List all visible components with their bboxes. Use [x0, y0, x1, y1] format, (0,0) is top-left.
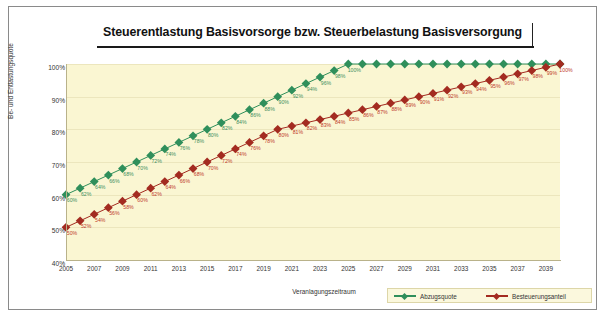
data-point-label: 96%: [504, 80, 514, 86]
x-tick-label: 2005: [59, 265, 73, 272]
data-point-label: 97%: [518, 76, 528, 82]
data-point-marker: [400, 60, 409, 69]
data-point-label: 70%: [137, 165, 147, 171]
x-axis-tick-labels: 2005200720092011201320152017201920212023…: [66, 265, 566, 279]
data-point-marker: [485, 60, 494, 69]
data-point-label: 80%: [279, 132, 289, 138]
y-axis-title: Be- und Entlastungsquote: [7, 0, 14, 119]
data-point-label: 54%: [95, 217, 105, 223]
x-tick-label: 2019: [256, 265, 270, 272]
x-tick-label: 2007: [87, 265, 101, 272]
data-point-label: 60%: [67, 197, 77, 203]
legend-marker-0: [401, 292, 408, 299]
series-lines: [66, 64, 560, 260]
x-tick-label: 2011: [144, 265, 158, 272]
data-point-marker: [414, 60, 423, 69]
data-point-label: 100%: [559, 67, 572, 73]
x-axis-line: [66, 260, 561, 261]
y-axis-line: [66, 64, 67, 261]
x-tick-label: 2009: [115, 265, 129, 272]
data-point-label: 92%: [448, 93, 458, 99]
data-point-label: 58%: [123, 204, 133, 210]
legend-label-0: Abzugsquote: [420, 293, 457, 300]
data-point-label: 66%: [180, 178, 190, 184]
y-tick-label: 80%: [52, 129, 65, 136]
data-point-label: 89%: [406, 102, 416, 108]
data-point-label: 82%: [307, 125, 317, 131]
data-point-label: 50%: [67, 230, 77, 236]
data-point-label: 85%: [349, 116, 359, 122]
data-point-label: 91%: [434, 96, 444, 102]
y-tick-label: 100%: [48, 64, 65, 71]
data-point-label: 87%: [377, 109, 387, 115]
data-point-label: 62%: [81, 191, 91, 197]
x-tick-label: 2025: [341, 265, 355, 272]
data-point-label: 80%: [208, 132, 218, 138]
data-point-label: 86%: [250, 112, 260, 118]
data-point-label: 93%: [462, 89, 472, 95]
x-tick-label: 2027: [369, 265, 383, 272]
data-point-marker: [429, 60, 438, 69]
data-point-label: 100%: [348, 67, 361, 73]
data-point-label: 60%: [137, 197, 147, 203]
plot-area: 60%62%64%66%68%70%72%74%76%78%80%82%84%8…: [66, 64, 560, 260]
data-point-label: 88%: [264, 106, 274, 112]
data-point-label: 99%: [547, 70, 557, 76]
data-point-label: 84%: [236, 119, 246, 125]
x-tick-label: 2013: [172, 265, 186, 272]
x-tick-label: 2017: [228, 265, 242, 272]
data-point-marker: [386, 60, 395, 69]
title-underline: [97, 46, 534, 48]
legend-marker-1: [493, 292, 500, 299]
x-tick-label: 2021: [285, 265, 299, 272]
data-point-label: 72%: [151, 158, 161, 164]
data-point-label: 98%: [335, 73, 345, 79]
data-point-label: 81%: [293, 129, 303, 135]
data-point-label: 88%: [391, 106, 401, 112]
data-point-label: 78%: [264, 138, 274, 144]
data-point-label: 84%: [335, 119, 345, 125]
data-point-label: 86%: [363, 112, 373, 118]
x-tick-label: 2037: [511, 265, 525, 272]
data-point-marker: [372, 60, 381, 69]
x-tick-label: 2033: [454, 265, 468, 272]
data-point-label: 90%: [420, 99, 430, 105]
data-point-label: 66%: [109, 178, 119, 184]
y-axis-tick-labels: 40%50%60%70%80%90%100%: [29, 57, 65, 267]
data-point-label: 96%: [321, 80, 331, 86]
data-point-label: 76%: [250, 145, 260, 151]
data-point-marker: [513, 60, 522, 69]
y-tick-label: 90%: [52, 97, 65, 104]
x-tick-label: 2039: [539, 265, 553, 272]
data-point-label: 74%: [166, 151, 176, 157]
data-point-label: 82%: [222, 125, 232, 131]
chart-frame: Steuerentlastung Basisvorsorge bzw. Steu…: [8, 6, 597, 310]
data-point-label: 98%: [533, 73, 543, 79]
data-point-label: 72%: [222, 158, 232, 164]
data-point-label: 76%: [180, 145, 190, 151]
data-point-marker: [499, 60, 508, 69]
data-point-label: 68%: [123, 171, 133, 177]
data-point-label: 78%: [194, 138, 204, 144]
x-tick-label: 2023: [313, 265, 327, 272]
y-tick-label: 70%: [52, 162, 65, 169]
data-point-marker: [457, 60, 466, 69]
data-point-label: 90%: [279, 99, 289, 105]
x-tick-label: 2015: [200, 265, 214, 272]
legend-label-1: Besteuerungsanteil: [512, 293, 566, 300]
data-point-label: 70%: [208, 165, 218, 171]
data-point-label: 74%: [236, 151, 246, 157]
data-point-marker: [471, 60, 480, 69]
data-point-marker: [443, 60, 452, 69]
data-point-label: 92%: [293, 93, 303, 99]
x-axis-title: Veranlagungszeitraum: [239, 288, 409, 295]
data-point-label: 95%: [490, 83, 500, 89]
x-tick-label: 2031: [426, 265, 440, 272]
data-point-label: 94%: [476, 86, 486, 92]
data-point-label: 94%: [307, 86, 317, 92]
data-point-label: 52%: [81, 223, 91, 229]
chart-title-box: Steuerentlastung Basisvorsorge bzw. Steu…: [97, 23, 533, 47]
x-tick-label: 2035: [482, 265, 496, 272]
data-point-label: 68%: [194, 171, 204, 177]
data-point-label: 62%: [151, 191, 161, 197]
